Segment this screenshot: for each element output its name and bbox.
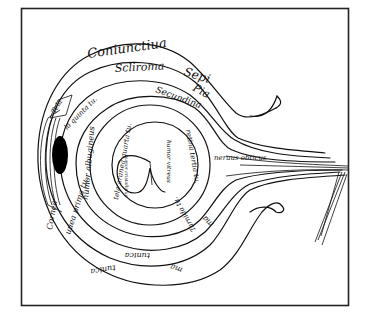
- label-cornea: Cornea: [45, 200, 59, 231]
- label-lens: humor cristallinus: [124, 155, 129, 197]
- label-aranea: tela aranea quarta tu.: [112, 123, 133, 201]
- outer-layer-outline: [38, 44, 282, 285]
- label-tunica-inner: tunica: [124, 251, 150, 260]
- label-tarnida: Tarnida tu.: [171, 195, 197, 233]
- label-tela: Tela: [50, 98, 64, 115]
- label-coniunctiua: Coniunctiua: [86, 35, 167, 61]
- cornea-band: [41, 118, 49, 205]
- label-retina: retina tertia tu.: [184, 129, 201, 184]
- label-humor-vitreus: humor vitreus: [166, 140, 173, 183]
- label-uvea: uuea prima tu.: [63, 176, 90, 236]
- diagram-frame: [22, 9, 349, 306]
- label-nerve: neruus obticus: [214, 154, 267, 162]
- label-scliroma: Scliroma: [114, 59, 164, 75]
- label-la-quinta: la quinta tu.: [63, 95, 99, 131]
- pupil: [52, 136, 68, 174]
- eye-diagram: Coniunctiua Sepi Scliroma Pia Secundina …: [0, 0, 368, 322]
- label-ma-mid: ma: [200, 214, 215, 229]
